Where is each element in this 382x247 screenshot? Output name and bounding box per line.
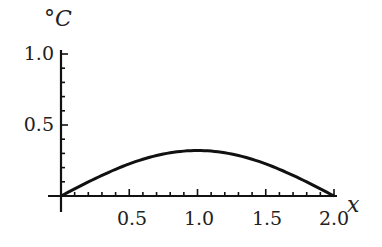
y-tick-label: 0.5 (24, 113, 54, 135)
x-tick-label: 2.0 (319, 207, 349, 229)
x-tick-label: 1.5 (252, 207, 282, 229)
y-axis-label: °C (44, 6, 72, 31)
y-tick-label: 1.0 (24, 42, 54, 64)
chart: °C x 1.0 0.5 0.5 1.0 1.5 2.0 (0, 0, 382, 247)
x-tick-label: 0.5 (117, 207, 147, 229)
x-tick-label: 1.0 (184, 207, 214, 229)
